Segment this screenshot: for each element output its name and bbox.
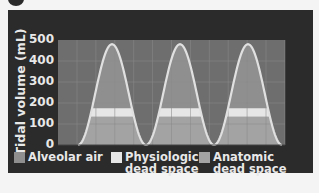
legend: Alveolar air Physiologic dead space Anat… bbox=[14, 151, 319, 181]
legend-swatch-alveolar-air bbox=[14, 152, 25, 163]
legend-swatch-physiologic-dead-space bbox=[111, 152, 122, 163]
legend-label: Anatomic dead space bbox=[213, 151, 301, 175]
legend-item-anatomic-dead-space: Anatomic dead space bbox=[199, 151, 301, 175]
legend-swatch-anatomic-dead-space bbox=[199, 152, 210, 163]
